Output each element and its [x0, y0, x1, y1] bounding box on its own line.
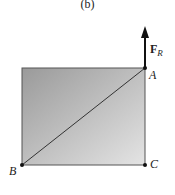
force-label: FR	[150, 42, 163, 58]
label-A: A	[149, 68, 156, 83]
point-A	[143, 66, 147, 70]
label-B: B	[9, 164, 16, 179]
force-arrow-head	[141, 26, 149, 38]
point-C	[143, 163, 147, 167]
diagram-canvas	[0, 0, 175, 195]
point-B	[20, 163, 24, 167]
label-C: C	[150, 157, 158, 172]
